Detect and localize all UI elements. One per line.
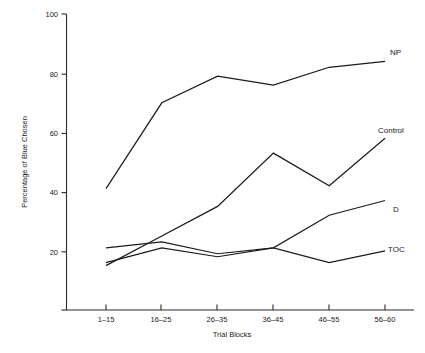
series-line-d [106,200,385,253]
chart-canvas: 20 40 60 80 100 1–15 16–25 26–35 36–45 4… [0,0,425,353]
x-tick-label-2: 16–25 [151,315,172,324]
series-line-toc [106,248,385,263]
y-tick-label-40: 40 [50,188,58,197]
series-label-np: NP [390,48,401,57]
x-tick-label-1: 1–15 [98,315,115,324]
series-label-toc: TOC [388,245,405,254]
x-axis-ticks [106,305,385,311]
series-line-control [106,138,385,265]
series-label-control: Control [378,126,404,135]
y-tick-label-20: 20 [50,248,58,257]
series-label-d: D [393,205,399,214]
x-tick-label-6: 56–60 [375,315,396,324]
series-line-np [106,61,385,188]
line-chart: 20 40 60 80 100 1–15 16–25 26–35 36–45 4… [0,0,425,353]
x-tick-label-4: 36–45 [263,315,284,324]
y-tick-label-100: 100 [45,10,58,19]
x-axis-title: Trial Blocks [213,330,252,339]
x-tick-label-5: 46–55 [319,315,340,324]
y-tick-label-60: 60 [50,129,58,138]
y-axis-ticks [62,14,67,310]
y-axis-title: Percentage of Blue Chosen [20,116,29,208]
x-tick-label-3: 26–35 [207,315,228,324]
y-tick-label-80: 80 [50,70,58,79]
